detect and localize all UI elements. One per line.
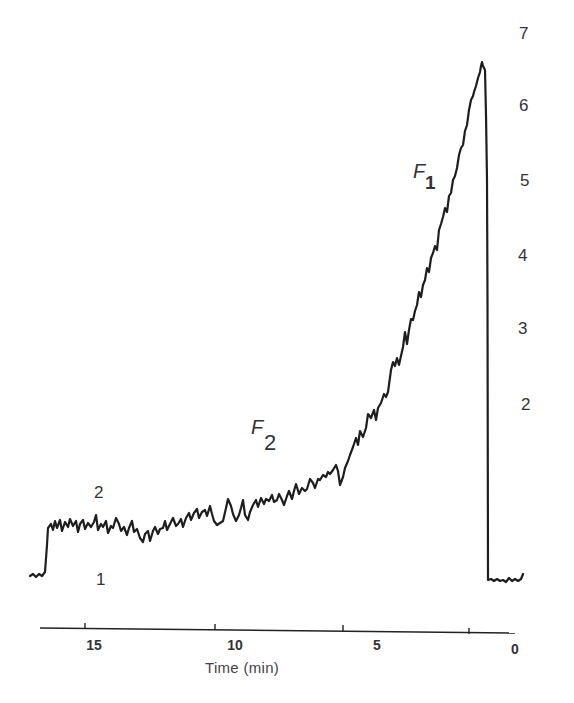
- f2-subscript: 2: [264, 430, 276, 456]
- right-scale-label-4: 4: [518, 247, 527, 264]
- level-label-1: 1: [96, 571, 105, 588]
- f2-label: F: [251, 416, 263, 439]
- f1-label: F: [413, 160, 425, 183]
- right-scale-label-7: 7: [519, 25, 528, 42]
- right-scale-label-6: 6: [519, 97, 528, 114]
- x-tick-label-0: 0: [511, 641, 519, 657]
- x-tick-label-10: 10: [227, 637, 243, 653]
- f1-subscript: 1: [425, 172, 436, 194]
- right-scale-label-2: 2: [521, 396, 530, 413]
- x-tick-label-15: 15: [86, 637, 102, 653]
- level-label-2: 2: [94, 484, 103, 501]
- trace-line: [30, 62, 523, 582]
- right-scale-label-3: 3: [518, 320, 527, 337]
- x-axis-title: Time (min): [205, 659, 279, 676]
- x-tick-label-5: 5: [373, 637, 381, 653]
- x-axis-line: [40, 628, 515, 633]
- chart-canvas: [0, 0, 574, 703]
- right-scale-label-5: 5: [520, 172, 529, 189]
